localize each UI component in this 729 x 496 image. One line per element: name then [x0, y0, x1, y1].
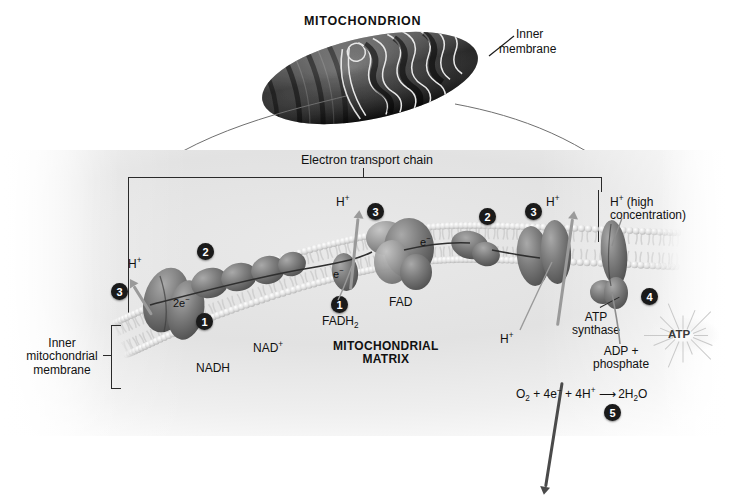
atp-ray: [683, 342, 684, 363]
oxygen-reduction-equation: O2 + 4e− + 4H+ ⟶ 2H2O: [516, 388, 647, 401]
atp-ray: [665, 339, 676, 350]
atp-ray: [693, 327, 706, 333]
atp-label: ATP: [668, 328, 690, 341]
atp-ray: [694, 335, 708, 336]
